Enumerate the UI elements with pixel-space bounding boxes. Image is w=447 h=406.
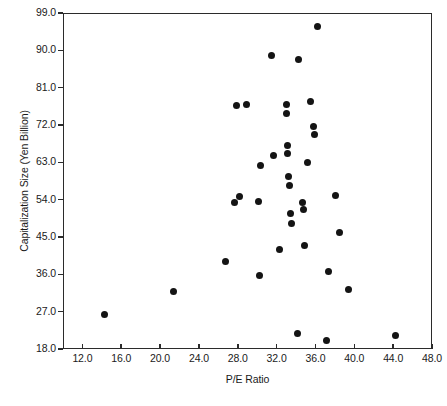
y-tick-label: 63.0 <box>36 155 56 168</box>
data-point <box>256 272 263 279</box>
data-point <box>294 330 301 337</box>
x-tick-label: 48.0 <box>422 352 442 365</box>
scatter-chart-figure: Capitalization Size (Yen Billion) 18.027… <box>0 0 447 406</box>
x-tick-label: 28.0 <box>228 352 248 365</box>
data-point <box>284 142 291 149</box>
data-point <box>323 337 330 344</box>
x-tick-mark <box>431 344 433 349</box>
data-points-layer <box>64 14 431 348</box>
data-point <box>101 311 108 318</box>
data-point <box>287 210 294 217</box>
data-point <box>233 102 240 109</box>
x-tick-mark <box>354 344 356 349</box>
data-point <box>257 162 264 169</box>
x-tick-label: 32.0 <box>267 352 287 365</box>
data-point <box>243 101 250 108</box>
y-tick-label: 54.0 <box>36 193 56 206</box>
data-point <box>336 229 343 236</box>
x-tick-label: 20.0 <box>150 352 170 365</box>
data-point <box>325 268 332 275</box>
data-point <box>301 242 308 249</box>
data-point <box>170 288 177 295</box>
data-point <box>270 152 277 159</box>
data-point <box>295 56 302 63</box>
x-tick-mark <box>82 344 84 349</box>
x-tick-label: 44.0 <box>383 352 403 365</box>
data-point <box>392 332 399 339</box>
x-tick-label: 12.0 <box>72 352 92 365</box>
data-point <box>299 199 306 206</box>
data-point <box>300 206 307 213</box>
y-tick-label: 90.0 <box>36 43 56 56</box>
x-tick-mark <box>237 344 239 349</box>
y-tick-label: 81.0 <box>36 81 56 94</box>
data-point <box>311 131 318 138</box>
y-tick-label: 45.0 <box>36 230 56 243</box>
x-tick-label: 16.0 <box>111 352 131 365</box>
data-point <box>307 98 314 105</box>
data-point <box>231 199 238 206</box>
data-point <box>332 192 339 199</box>
y-tick-label: 72.0 <box>36 118 56 131</box>
x-axis-title: P/E Ratio <box>63 372 432 386</box>
y-axis: 18.027.036.045.054.063.072.081.090.099.0 <box>0 0 63 406</box>
y-tick-label: 99.0 <box>36 6 56 19</box>
x-tick-mark <box>159 344 161 349</box>
data-point <box>276 246 283 253</box>
data-point <box>236 193 243 200</box>
data-point <box>288 220 295 227</box>
x-tick-mark <box>276 344 278 349</box>
x-tick-label: 36.0 <box>305 352 325 365</box>
data-point <box>268 52 275 59</box>
data-point <box>255 198 262 205</box>
data-point <box>286 182 293 189</box>
data-point <box>310 123 317 130</box>
data-point <box>314 23 321 30</box>
y-tick-label: 36.0 <box>36 267 56 280</box>
x-tick-label: 40.0 <box>344 352 364 365</box>
data-point <box>345 286 352 293</box>
plot-area <box>63 13 432 349</box>
data-point <box>222 258 229 265</box>
data-point <box>283 101 290 108</box>
x-tick-mark <box>315 344 317 349</box>
data-point <box>304 159 311 166</box>
x-tick-mark <box>120 344 122 349</box>
x-tick-label: 24.0 <box>189 352 209 365</box>
data-point <box>283 110 290 117</box>
x-tick-mark <box>198 344 200 349</box>
y-tick-label: 27.0 <box>36 305 56 318</box>
x-tick-mark <box>392 344 394 349</box>
data-point <box>284 150 291 157</box>
data-point <box>285 173 292 180</box>
